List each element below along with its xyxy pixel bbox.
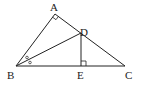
label-a: A (50, 1, 58, 13)
segment-ab (16, 14, 55, 66)
segment-bd (16, 33, 81, 66)
angle-mark-b-lower (29, 61, 32, 64)
label-d: D (80, 26, 88, 38)
label-c: C (125, 69, 132, 81)
triangle-diagram: A D B E C (0, 0, 141, 87)
angle-mark-b-upper (26, 56, 29, 59)
right-angle-mark-e (81, 61, 86, 66)
right-angle-mark-a (53, 17, 59, 20)
label-b: B (7, 69, 14, 81)
label-e: E (77, 69, 84, 81)
segment-ac (55, 14, 125, 66)
